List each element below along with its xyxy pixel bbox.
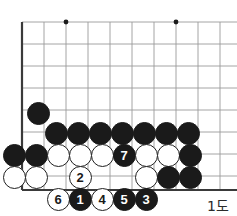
black-stone-move-1: 1: [69, 188, 92, 211]
white-stone-h6: [157, 144, 180, 167]
white-stone-d6: [69, 144, 92, 167]
black-stone-i6: [179, 144, 202, 167]
figure-caption: 1도: [207, 195, 230, 215]
black-stone-h7: [155, 122, 178, 145]
black-stone-b8: [27, 102, 50, 125]
white-stone-b5: [25, 166, 48, 189]
stone-layer: 7261453: [0, 0, 237, 216]
white-stone-move-4: 4: [91, 188, 114, 211]
white-stone-e6: [91, 144, 114, 167]
black-stone-move-7: 7: [113, 144, 136, 167]
white-stone-g6: [135, 144, 158, 167]
black-stone-b6: [25, 144, 48, 167]
black-stone-h5: [157, 166, 180, 189]
white-stone-g5: [135, 166, 158, 189]
black-stone-e7: [89, 122, 112, 145]
black-stone-move-3: 3: [135, 188, 158, 211]
white-stone-a5: [3, 166, 26, 189]
black-stone-a6: [3, 144, 26, 167]
black-stone-g7: [133, 122, 156, 145]
black-stone-i5: [179, 166, 202, 189]
white-stone-move-6: 6: [47, 188, 70, 211]
white-stone-c6: [47, 144, 70, 167]
black-stone-move-5: 5: [113, 188, 136, 211]
go-diagram-figure: 7261453 1도: [0, 0, 237, 216]
black-stone-f7: [111, 122, 134, 145]
black-stone-d7: [67, 122, 90, 145]
black-stone-c7: [45, 122, 68, 145]
black-stone-i7: [177, 122, 200, 145]
white-stone-move-2: 2: [69, 166, 92, 189]
